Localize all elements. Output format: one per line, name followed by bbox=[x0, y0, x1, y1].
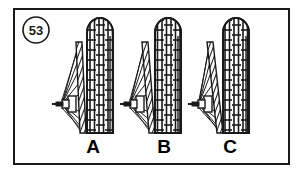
tire-c bbox=[222, 18, 251, 136]
rim-band-a bbox=[76, 42, 86, 133]
wheel-label-c: C bbox=[223, 136, 237, 157]
axle-nut-c bbox=[192, 102, 199, 106]
tire-b bbox=[154, 18, 183, 136]
figure-number-label: 53 bbox=[29, 23, 43, 38]
wheel-label-b: B bbox=[157, 136, 171, 157]
axle-nut-b bbox=[124, 102, 131, 106]
figure-illustration: 53 bbox=[0, 0, 305, 175]
wheel-label-a: A bbox=[86, 136, 100, 157]
tire-a bbox=[86, 18, 115, 136]
axle-nut-a bbox=[56, 102, 63, 106]
wheel-assembly-a: A bbox=[52, 18, 115, 157]
figure-container: 53 bbox=[0, 0, 305, 175]
wheel-assembly-b: B bbox=[120, 18, 183, 157]
rim-a bbox=[76, 42, 86, 133]
wheel-assembly-c: C bbox=[188, 18, 251, 157]
figure-number-badge: 53 bbox=[23, 17, 49, 43]
